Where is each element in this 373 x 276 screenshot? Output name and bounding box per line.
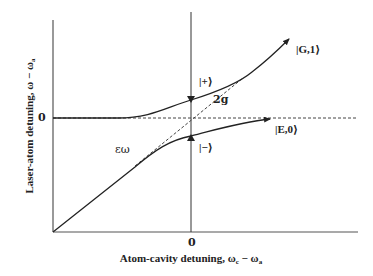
energy-diagram [0, 0, 373, 276]
lower-branch-curve [53, 119, 270, 232]
y-axis-label: Laser-atom detuning, ω − ωa [23, 58, 37, 193]
e0-state-label: |E,0⟩ [275, 123, 298, 136]
upper-branch-curve [53, 39, 289, 118]
splitting-label: 2g [213, 93, 228, 106]
x-zero-tick: 0 [188, 236, 196, 249]
minus-state-label: |−⟩ [199, 141, 213, 154]
x-axis-label: Atom-cavity detuning, ωc − ωa [120, 252, 262, 266]
diagonal-dashed-asymptote [135, 78, 243, 166]
g1-state-label: |G,1⟩ [296, 43, 320, 56]
epsilon-omega-label: εω [115, 143, 130, 156]
plus-state-label: |+⟩ [199, 75, 213, 88]
y-zero-tick: 0 [38, 111, 46, 124]
